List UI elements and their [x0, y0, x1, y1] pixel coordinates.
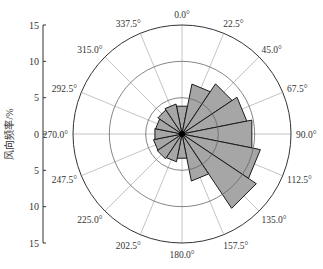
angle-label: 292.5°: [52, 84, 77, 94]
wind-rose-chart: 15105051015 风向频率/% 0.0°22.5°45.0°67.5°90…: [0, 0, 323, 269]
y-tick-label: 10: [29, 56, 39, 67]
angle-label: 247.5°: [52, 175, 77, 185]
y-tick-label: 5: [34, 165, 39, 176]
angle-label: 90.0°: [296, 130, 317, 140]
y-tick-label: 15: [29, 20, 39, 31]
angle-label: 180.0°: [169, 250, 194, 260]
angle-label: 0.0°: [174, 10, 190, 20]
angle-label: 225.0°: [77, 215, 102, 225]
angle-label: 157.5°: [223, 241, 248, 251]
angle-label: 135.0°: [261, 215, 286, 225]
center-dot: [179, 131, 185, 137]
angle-label: 270.0°: [43, 130, 68, 140]
chart-canvas: 15105051015 风向频率/% 0.0°22.5°45.0°67.5°90…: [0, 0, 323, 269]
y-tick-label: 0: [34, 129, 39, 140]
angle-label: 202.5°: [116, 241, 141, 251]
angle-label: 45.0°: [261, 45, 282, 55]
y-axis-label: 风向频率/%: [3, 108, 15, 159]
angle-label: 67.5°: [287, 84, 308, 94]
wind-frequency-bars: [153, 84, 260, 208]
y-tick-label: 5: [34, 92, 39, 103]
y-tick-label: 10: [29, 201, 39, 212]
angle-label: 22.5°: [223, 19, 244, 29]
angle-label: 315.0°: [77, 45, 102, 55]
angle-label: 337.5°: [116, 19, 141, 29]
angle-label: 112.5°: [287, 175, 312, 185]
y-tick-label: 15: [29, 238, 39, 249]
